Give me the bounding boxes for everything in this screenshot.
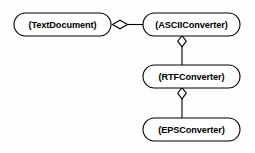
aggregation-diamond-icon <box>113 20 128 29</box>
edge-textdocument-asciiconverter <box>113 20 144 29</box>
node-text-document-label: (TextDocument) <box>29 20 97 30</box>
node-ascii-converter-label: (ASCIIConverter) <box>155 20 227 30</box>
node-eps-converter-label: (EPSConverter) <box>158 125 225 135</box>
node-ascii-converter[interactable]: (ASCIIConverter) <box>143 13 240 36</box>
node-rtf-converter-label: (RTFConverter) <box>159 72 225 82</box>
diagram-canvas: (TextDocument) (ASCIIConverter) (RTFConv… <box>0 0 255 153</box>
edge-asciiconverter-rtfconverter <box>178 36 187 65</box>
node-eps-converter[interactable]: (EPSConverter) <box>143 118 240 141</box>
node-rtf-converter[interactable]: (RTFConverter) <box>143 65 240 88</box>
uml-aggregation-diagram: (TextDocument) (ASCIIConverter) (RTFConv… <box>0 0 255 153</box>
edge-rtfconverter-epsconverter <box>178 88 187 118</box>
aggregation-diamond-icon <box>178 36 187 47</box>
aggregation-diamond-icon <box>178 88 187 99</box>
node-text-document[interactable]: (TextDocument) <box>14 13 111 36</box>
